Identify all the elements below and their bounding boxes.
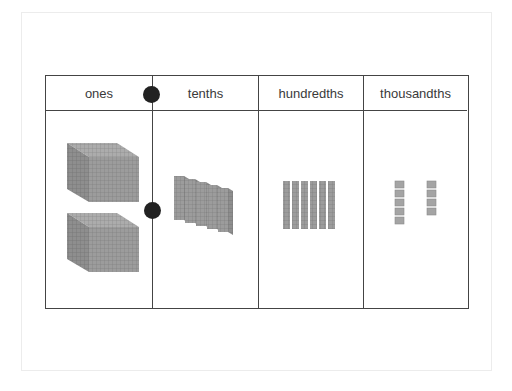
place-value-table: ones tenths hundredths thousandths [45, 75, 469, 309]
column-header-thousandths: thousandths [364, 76, 467, 111]
column-header-ones: ones [46, 76, 152, 111]
column-thousandths: thousandths [363, 76, 467, 308]
decimal-point-dot-header [143, 86, 160, 103]
column-header-hundredths: hundredths [259, 76, 363, 111]
column-tenths: tenths [152, 76, 258, 308]
decimal-point-dot-body [144, 202, 161, 219]
column-header-tenths: tenths [153, 76, 258, 111]
column-ones: ones [46, 76, 152, 308]
column-hundredths: hundredths [258, 76, 363, 308]
